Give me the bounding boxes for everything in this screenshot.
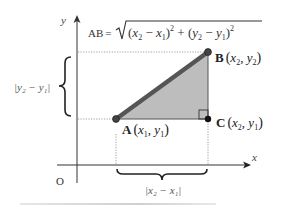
point-b-label: B(x2, y2) bbox=[215, 50, 261, 67]
vertical-distance-label: |y₂ − y₁| bbox=[14, 81, 50, 93]
x-axis-label: x bbox=[251, 151, 257, 163]
distance-formula: AB= (x2 − x1)2 + (y2 − y1)2 bbox=[88, 21, 262, 42]
point-a-label: A(x1, y1) bbox=[122, 122, 169, 139]
point-c-label: C(x2, y1) bbox=[216, 115, 263, 132]
point-b bbox=[205, 49, 212, 56]
horizontal-brace-icon bbox=[117, 169, 207, 180]
bottom-divider bbox=[20, 203, 216, 205]
origin-label: O bbox=[56, 175, 64, 187]
distance-formula-diagram: y x O B(x2, y2) C(x2, y1) A(x1, y1) AB= … bbox=[0, 0, 288, 208]
point-a bbox=[113, 116, 120, 123]
formula-radicand: (x2 − x1)2 + (y2 − y1)2 bbox=[128, 24, 234, 42]
point-c bbox=[205, 116, 211, 122]
horizontal-distance-label: |x₂ − x₁| bbox=[145, 184, 181, 196]
vertical-brace-icon bbox=[59, 57, 71, 116]
formula-lhs: AB= bbox=[88, 27, 112, 39]
y-axis-label: y bbox=[60, 14, 66, 26]
